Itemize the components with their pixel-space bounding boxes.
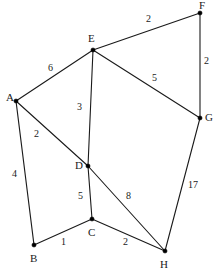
node-c[interactable] (90, 217, 94, 221)
node-label-h: H (160, 259, 168, 270)
edge-weight-g-h: 17 (188, 180, 198, 190)
edge-a-e (16, 50, 93, 101)
edge-weight-a-d: 2 (34, 129, 39, 139)
node-label-e: E (88, 33, 95, 44)
edge-weight-e-d: 3 (77, 102, 82, 112)
node-label-a: A (6, 92, 14, 103)
edge-d-c (88, 166, 92, 219)
edge-weight-a-b: 4 (12, 169, 17, 179)
node-f[interactable] (198, 11, 202, 15)
edge-weight-e-f: 2 (146, 14, 151, 24)
edge-weight-d-c: 5 (78, 191, 83, 201)
graph-figure: 6242532581217ABCDEFGH (0, 0, 218, 273)
node-label-g: G (205, 112, 213, 123)
node-label-f: F (199, 0, 205, 11)
node-label-d: D (75, 160, 83, 171)
edge-c-h (92, 219, 165, 251)
node-label-c: C (88, 227, 95, 238)
node-e[interactable] (91, 48, 95, 52)
edge-weight-d-h: 8 (126, 191, 131, 201)
edges-group (16, 13, 200, 251)
edge-weight-c-h: 2 (123, 237, 128, 247)
edge-weight-e-g: 5 (152, 73, 157, 83)
node-a[interactable] (14, 99, 18, 103)
graph-canvas (0, 0, 218, 273)
node-b[interactable] (32, 243, 36, 247)
node-d[interactable] (86, 164, 90, 168)
node-h[interactable] (163, 249, 167, 253)
edge-e-d (88, 50, 93, 166)
edge-a-b (16, 101, 34, 245)
edge-weight-b-c: 1 (61, 237, 66, 247)
edge-weight-a-e: 6 (48, 63, 53, 73)
edge-e-g (93, 50, 200, 118)
node-label-b: B (30, 253, 37, 264)
edge-weight-f-g: 2 (204, 56, 209, 66)
node-g[interactable] (198, 116, 202, 120)
